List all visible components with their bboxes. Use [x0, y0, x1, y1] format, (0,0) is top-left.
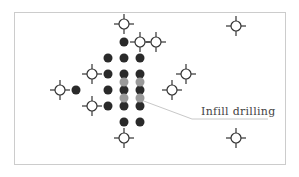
infill-well-dot: [136, 78, 145, 87]
production-well-dot: [120, 102, 129, 111]
production-well-dot: [104, 54, 113, 63]
production-well-dot: [104, 70, 113, 79]
injection-well-icon: [82, 64, 102, 84]
injection-well-icon: [226, 128, 246, 148]
injection-wells: [50, 14, 246, 148]
infill-well-dot: [136, 94, 145, 103]
injection-well-icon: [146, 32, 166, 52]
injection-well-icon: [50, 80, 70, 100]
production-well-dot: [72, 86, 81, 95]
production-well-dot: [136, 86, 145, 95]
injection-well-icon: [176, 64, 196, 84]
injection-well-icon: [226, 16, 246, 36]
production-well-dot: [136, 118, 145, 127]
production-well-dot: [120, 38, 129, 47]
injection-well-icon: [114, 14, 134, 34]
production-well-dot: [136, 70, 145, 79]
production-well-dot: [136, 102, 145, 111]
production-well-dot: [120, 54, 129, 63]
infill-well-dot: [120, 78, 129, 87]
production-well-dot: [120, 70, 129, 79]
production-well-dot: [104, 86, 113, 95]
infill-drilling-label: Infill drilling: [201, 105, 276, 118]
production-well-dot: [120, 86, 129, 95]
infill-drilling-diagram: Infill drilling: [0, 0, 299, 177]
production-well-dot: [104, 102, 113, 111]
existing-production-wells: [72, 38, 145, 127]
injection-well-icon: [82, 96, 102, 116]
injection-well-icon: [162, 80, 182, 100]
production-well-dot: [120, 118, 129, 127]
production-well-dot: [136, 54, 145, 63]
infill-well-dot: [120, 94, 129, 103]
injection-well-icon: [114, 128, 134, 148]
